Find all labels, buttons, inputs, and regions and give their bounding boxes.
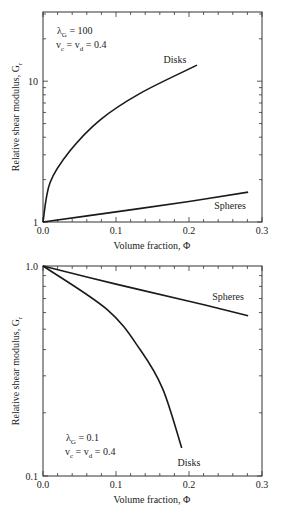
lambda-annotation: λG = 100 [57, 25, 93, 39]
y-axis-label: Relative shear modulus, Gr [10, 62, 24, 171]
y-tick-label: 10 [28, 76, 38, 87]
series-label-spheres: Spheres [212, 291, 244, 302]
series-label-disks: Disks [164, 54, 187, 65]
series-line-disks [43, 65, 197, 222]
x-tick-label: 0.2 [183, 479, 196, 490]
poisson-annotation: vc = vd = 0.4 [56, 39, 106, 53]
y-axis-label: Relative shear modulus, Gr [10, 316, 24, 425]
series-label-disks: Disks [178, 457, 201, 468]
bottom-chart: 1.0 0.1 0.0 0.1 0.2 0.3 Volume fraction,… [10, 261, 268, 505]
x-tick-label: 0.0 [37, 479, 50, 490]
series-line-disks [43, 266, 182, 448]
y-tick-label: 1.0 [26, 261, 39, 272]
x-tick-label: 0.3 [256, 225, 269, 236]
x-tick-label: 0.2 [183, 225, 196, 236]
series-label-spheres: Spheres [214, 200, 246, 211]
figure: 1 10 0.0 0.1 0.2 0.3 Volume fraction, Φ … [0, 0, 282, 516]
x-axis-label: Volume fraction, Φ [114, 494, 191, 505]
poisson-annotation: vc = vd = 0.4 [65, 446, 115, 460]
top-chart: 1 10 0.0 0.1 0.2 0.3 Volume fraction, Φ … [10, 12, 268, 251]
x-tick-label: 0.1 [110, 225, 123, 236]
x-tick-label: 0.3 [256, 479, 269, 490]
x-tick-label: 0.0 [37, 225, 50, 236]
lambda-annotation: λG = 0.1 [66, 432, 99, 446]
x-axis-label: Volume fraction, Φ [114, 240, 191, 251]
x-tick-label: 0.1 [110, 479, 123, 490]
data-curves [43, 65, 248, 222]
